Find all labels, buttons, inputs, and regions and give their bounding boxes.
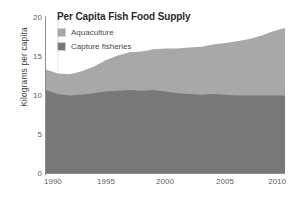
- x-tick-label: 2000: [156, 177, 174, 186]
- x-tick-label: 1990: [44, 177, 62, 186]
- y-tick-label: 5: [20, 131, 42, 139]
- legend-label: Capture fisheries: [71, 42, 131, 51]
- legend-swatch-icon: [57, 28, 66, 37]
- y-tick-label: 10: [20, 92, 42, 100]
- x-tick-label: 1995: [97, 177, 115, 186]
- legend-label: Aquaculture: [71, 28, 114, 37]
- y-axis-ticks: 20 15 10 5 0: [18, 0, 42, 200]
- y-tick-label: 15: [20, 53, 42, 61]
- y-tick-label: 20: [20, 14, 42, 22]
- legend-swatch-icon: [57, 42, 66, 51]
- legend-item-aquaculture: Aquaculture: [57, 26, 131, 38]
- legend-item-capture-fisheries: Capture fisheries: [57, 40, 131, 52]
- chart-legend: Aquaculture Capture fisheries: [57, 26, 131, 54]
- y-tick-label: 0: [20, 170, 42, 178]
- x-tick-label: 2005: [216, 177, 234, 186]
- area-capture-fisheries: [46, 90, 285, 174]
- chart-title: Per Capita Fish Food Supply: [57, 11, 190, 22]
- x-tick-label: 2010: [268, 177, 286, 186]
- chart-container: Kilograms per capita 20 15 10 5 0 1990 1…: [0, 0, 297, 200]
